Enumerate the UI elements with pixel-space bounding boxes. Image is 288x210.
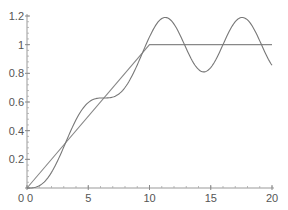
x-tick-label: 0 [27,192,33,204]
series-group [27,17,272,188]
y-tick-label: 0.8 [9,67,24,79]
axes: 0510152000.20.40.60.811.2 [9,10,278,204]
y-tick-label: 0 [18,192,24,204]
line-chart: 0510152000.20.40.60.811.2 [0,0,288,210]
x-tick-label: 20 [266,192,278,204]
series-oscillating-response [27,17,272,188]
series-ramp-saturation [27,45,272,188]
x-tick-label: 15 [205,192,217,204]
x-tick-label: 5 [85,192,91,204]
y-tick-label: 1.2 [9,10,24,22]
x-tick-label: 10 [143,192,155,204]
y-tick-label: 0.6 [9,96,24,108]
y-tick-label: 0.4 [9,125,24,137]
y-tick-label: 1 [18,39,24,51]
y-tick-label: 0.2 [9,153,24,165]
